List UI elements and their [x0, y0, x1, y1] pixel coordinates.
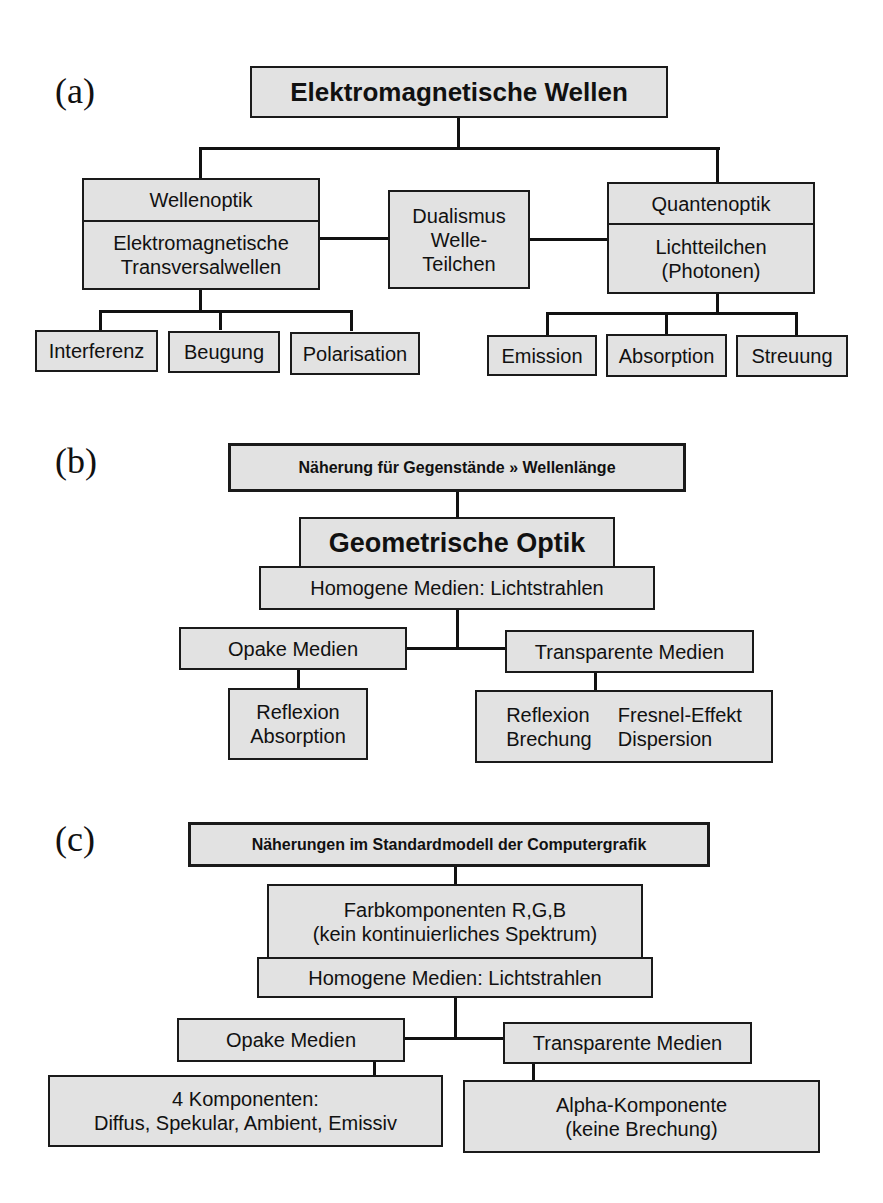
node-opake-medien: Opake Medien	[177, 1018, 405, 1062]
connector	[795, 312, 798, 335]
node-text: Reflexion	[506, 703, 592, 727]
node-geometrische-optik: Geometrische Optik	[299, 517, 615, 568]
node-opake-medien: Opake Medien	[179, 627, 407, 670]
connector	[457, 118, 460, 150]
node-wellenoptik: Wellenoptik Elektromagnetische Transvers…	[82, 178, 320, 290]
node-text: Geometrische Optik	[329, 531, 586, 555]
node-transparente-medien: Transparente Medien	[505, 630, 754, 673]
node-text: Fresnel-Effekt	[618, 703, 742, 727]
connector	[99, 310, 102, 330]
connector	[530, 238, 607, 241]
node-text: Streuung	[751, 344, 832, 368]
node-text: Dualismus	[412, 204, 505, 228]
connector	[546, 312, 549, 335]
node-text: Opake Medien	[226, 1028, 356, 1052]
connector	[405, 1037, 503, 1040]
node-homogene-medien: Homogene Medien: Lichtstrahlen	[257, 957, 653, 998]
connector	[546, 312, 798, 315]
node-transparente-medien: Transparente Medien	[503, 1022, 752, 1064]
node-text: Teilchen	[422, 252, 495, 276]
node-text: (Photonen)	[662, 259, 761, 283]
root-node-elektromagnetische-wellen: Elektromagnetische Wellen	[250, 66, 668, 118]
node-text: Absorption	[250, 724, 346, 748]
node-emission: Emission	[487, 335, 597, 376]
connector	[456, 610, 459, 649]
node-text: Lichtteilchen	[655, 235, 766, 259]
connector	[716, 147, 719, 182]
node-absorption: Absorption	[606, 334, 727, 377]
node-text: Welle-	[431, 228, 487, 252]
root-node-text: Elektromagnetische Wellen	[290, 80, 628, 104]
connector	[99, 310, 353, 313]
node-wellenoptik-title: Wellenoptik	[84, 180, 318, 222]
node-text: Elektromagnetische	[113, 231, 289, 255]
connector	[199, 147, 720, 150]
connector	[665, 312, 668, 334]
node-text: (keine Brechung)	[565, 1117, 717, 1141]
node-text: 4 Komponenten:	[172, 1087, 319, 1111]
node-text: Opake Medien	[228, 637, 358, 661]
connector	[373, 1062, 376, 1076]
connector	[532, 1064, 535, 1081]
node-text: Transparente Medien	[535, 640, 724, 664]
node-text: Interferenz	[49, 339, 145, 363]
node-text: Brechung	[506, 727, 592, 751]
node-standardmodell-header: Näherungen im Standardmodell der Compute…	[188, 822, 710, 867]
connector	[407, 647, 506, 650]
connector	[199, 290, 202, 312]
node-text: Alpha-Komponente	[556, 1093, 727, 1117]
node-text: Näherungen im Standardmodell der Compute…	[252, 833, 647, 857]
node-text: Homogene Medien: Lichtstrahlen	[310, 576, 604, 600]
node-homogene-medien: Homogene Medien: Lichtstrahlen	[259, 566, 655, 610]
panel-a-label: (a)	[55, 70, 95, 112]
node-text: Polarisation	[303, 342, 408, 366]
node-naeherung-header: Näherung für Gegenstände » Wellenlänge	[228, 443, 686, 492]
connector	[594, 673, 597, 690]
node-dualismus: Dualismus Welle- Teilchen	[388, 190, 530, 289]
node-text: Absorption	[619, 344, 715, 368]
panel-b-label: (b)	[55, 440, 97, 482]
node-text: (kein kontinuierliches Spektrum)	[313, 922, 598, 946]
node-quantenoptik: Quantenoptik Lichtteilchen (Photonen)	[607, 182, 815, 294]
node-interferenz: Interferenz	[35, 330, 158, 372]
node-alpha-komponente: Alpha-Komponente (keine Brechung)	[463, 1080, 820, 1153]
connector	[456, 492, 459, 517]
node-polarisation: Polarisation	[290, 332, 420, 375]
node-text: Näherung für Gegenstände » Wellenlänge	[298, 456, 615, 480]
connector	[350, 310, 353, 331]
connector	[219, 310, 222, 330]
node-text: Diffus, Spekular, Ambient, Emissiv	[94, 1111, 397, 1135]
connector	[199, 147, 202, 178]
node-text: Homogene Medien: Lichtstrahlen	[308, 966, 602, 990]
node-transparent-effects: Reflexion Fresnel-Effekt Brechung Disper…	[475, 690, 773, 763]
node-text: Emission	[501, 344, 582, 368]
connector	[454, 867, 457, 885]
connector	[320, 237, 388, 240]
node-text: Transversalwellen	[121, 255, 281, 279]
node-text: Transparente Medien	[533, 1031, 722, 1055]
node-text: Dispersion	[618, 727, 742, 751]
node-quantenoptik-title: Quantenoptik	[609, 184, 813, 225]
node-streuung: Streuung	[736, 335, 848, 377]
node-text: Reflexion	[256, 700, 339, 724]
node-4-komponenten: 4 Komponenten: Diffus, Spekular, Ambient…	[48, 1075, 443, 1147]
connector	[716, 294, 719, 314]
node-farbkomponenten: Farbkomponenten R,G,B (kein kontinuierli…	[267, 884, 643, 959]
node-beugung: Beugung	[168, 331, 280, 373]
node-opaque-effects: Reflexion Absorption	[228, 688, 368, 760]
node-text: Farbkomponenten R,G,B	[344, 898, 566, 922]
node-text: Beugung	[184, 340, 264, 364]
connector	[297, 670, 300, 688]
connector	[454, 998, 457, 1039]
panel-c-label: (c)	[55, 818, 95, 860]
